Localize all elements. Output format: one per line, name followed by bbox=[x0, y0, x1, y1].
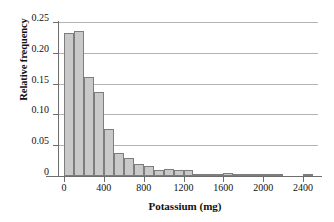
histogram-bar bbox=[144, 166, 154, 176]
histogram-bar bbox=[193, 174, 203, 176]
histogram-bar bbox=[263, 174, 273, 176]
histogram-bar bbox=[223, 173, 233, 176]
histogram-bar bbox=[303, 174, 313, 176]
histogram-bar bbox=[253, 174, 263, 176]
histogram-bar bbox=[164, 169, 174, 176]
y-tick-mark-0 bbox=[53, 176, 59, 177]
histogram-bar bbox=[184, 170, 194, 176]
y-tick-label-0.15: 0.15 bbox=[9, 79, 49, 80]
histogram-bar bbox=[174, 170, 184, 176]
histogram-bars-group bbox=[59, 22, 318, 176]
histogram-bar bbox=[124, 158, 134, 176]
y-tick-label-0.10: 0.10 bbox=[9, 109, 49, 110]
histogram-bar bbox=[104, 129, 114, 176]
histogram-bar bbox=[84, 77, 94, 176]
y-tick-label-0.20: 0.20 bbox=[9, 48, 49, 49]
histogram-bar bbox=[94, 92, 104, 176]
y-tick-label-0: 0 bbox=[9, 171, 49, 172]
histogram-bar bbox=[243, 174, 253, 176]
y-tick-label-0.05: 0.05 bbox=[9, 140, 49, 141]
histogram-bar bbox=[74, 31, 84, 176]
histogram-bar bbox=[233, 174, 243, 176]
histogram-bar bbox=[154, 170, 164, 176]
histogram-bar bbox=[134, 164, 144, 176]
histogram-bar bbox=[64, 33, 74, 176]
histogram-bar bbox=[114, 153, 124, 176]
histogram-chart: Relative frequency 00.050.100.150.200.25… bbox=[0, 0, 334, 222]
histogram-bar bbox=[203, 174, 213, 176]
histogram-bar bbox=[213, 174, 223, 176]
x-tick-label-2400: 2400 bbox=[280, 182, 326, 193]
y-tick-label-0.25: 0.25 bbox=[9, 17, 49, 18]
x-axis-title: Potassium (mg) bbox=[50, 200, 320, 212]
histogram-bar bbox=[273, 174, 283, 176]
